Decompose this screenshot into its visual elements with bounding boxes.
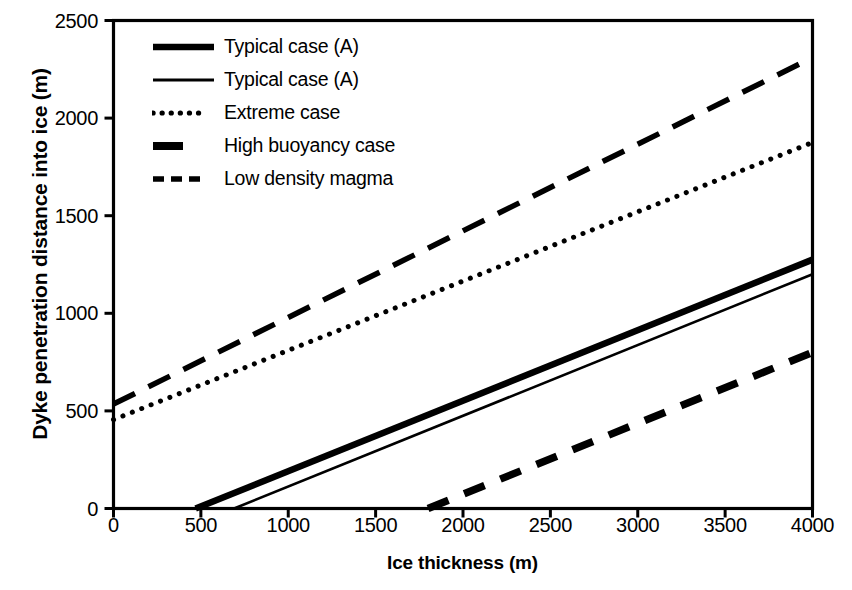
dotted-swatch xyxy=(152,104,214,122)
y-tick-label-4: 2000 xyxy=(0,107,108,130)
y-tick-label-1: 500 xyxy=(0,399,108,422)
x-tick-label-0: 0 xyxy=(108,514,119,537)
legend-item-4: High buoyancy case xyxy=(152,129,452,162)
x-tick-label-4: 2000 xyxy=(441,514,484,537)
legend-label-4: High buoyancy case xyxy=(224,136,395,156)
legend-label-5: Low density magma xyxy=(224,169,393,189)
x-tick-label-5: 2500 xyxy=(529,514,572,537)
series-line-4 xyxy=(428,352,812,508)
x-axis-title: Ice thickness (m) xyxy=(113,552,812,574)
x-tick-label-8: 4000 xyxy=(791,514,834,537)
legend-label-1: Typical case (A) xyxy=(224,37,359,57)
y-tick-label-5: 2500 xyxy=(0,9,108,32)
x-tick-label-2: 1000 xyxy=(267,514,310,537)
x-tick-label-6: 3000 xyxy=(616,514,659,537)
legend-item-1: Typical case (A) xyxy=(152,30,452,63)
y-tick-label-2: 1000 xyxy=(0,302,108,325)
dashed-thick-swatch xyxy=(152,137,214,155)
y-tick-label-0: 0 xyxy=(0,497,108,520)
x-tick-label-3: 1500 xyxy=(354,514,397,537)
series-line-1 xyxy=(196,260,813,509)
legend-label-2: Typical case (A) xyxy=(224,70,359,90)
legend-item-5: Low density magma xyxy=(152,162,452,195)
x-tick-label-7: 3500 xyxy=(703,514,746,537)
solid-thin-swatch xyxy=(152,71,214,89)
x-tick-label-1: 500 xyxy=(185,514,217,537)
legend-item-2: Typical case (A) xyxy=(152,63,452,96)
dashed-swatch xyxy=(152,170,214,188)
y-tick-label-3: 1500 xyxy=(0,204,108,227)
legend-item-3: Extreme case xyxy=(152,96,452,129)
legend-label-3: Extreme case xyxy=(224,103,340,123)
chart-legend: Typical case (A)Typical case (A)Extreme … xyxy=(152,30,452,195)
solid-thick-swatch xyxy=(152,38,214,56)
chart-figure: Dyke penetration distance into ice (m) I… xyxy=(0,0,852,590)
